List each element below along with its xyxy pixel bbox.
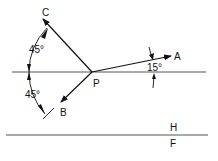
angle-label-c: 45° [29, 44, 44, 55]
region-label-f: F [170, 138, 176, 149]
angle-label-a: 15° [147, 62, 162, 73]
vector-b [61, 72, 92, 102]
label-a: A [174, 51, 181, 62]
vector-c [43, 19, 92, 72]
angle-arrow-b-bottom [38, 104, 45, 114]
vector-diagram: C P A B 45° 45° 15° H F [0, 0, 218, 161]
region-label-h: H [170, 122, 177, 133]
angle-arrow-c-bottom [27, 64, 31, 72]
angle-arrowhead-a-top [149, 53, 154, 60]
label-c: C [42, 7, 49, 18]
angle-label-b: 45° [25, 89, 40, 100]
angle-arrowhead-a-bottom [152, 73, 156, 79]
angle-arrow-b-top [27, 72, 31, 80]
label-p: P [93, 78, 100, 89]
label-b: B [60, 107, 67, 118]
